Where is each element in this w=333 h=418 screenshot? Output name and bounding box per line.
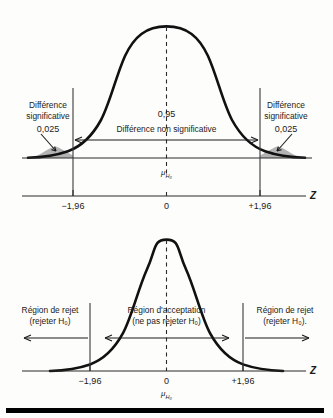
top-center-area-value: 0,95 xyxy=(158,109,176,119)
top-right-region-label-line2: significative xyxy=(264,111,308,121)
top-normal-curve xyxy=(28,26,305,157)
bottom-right-region-label-line2: (rejeter H₀). xyxy=(263,316,307,326)
statistics-figure: Différence significative 0,025 Différenc… xyxy=(0,0,333,418)
bottom-z-axis-label: Z xyxy=(309,365,317,376)
top-panel: Différence significative 0,025 Différenc… xyxy=(22,26,317,211)
top-right-leader-line xyxy=(277,134,292,151)
bottom-left-region-label-line2: (rejeter H₀) xyxy=(29,316,70,326)
bottom-center-region-label-line1: Région d'acceptation xyxy=(128,305,206,315)
bottom-mu-label: μH₀ xyxy=(160,389,172,400)
top-left-leader-line xyxy=(41,134,56,151)
bottom-tick-label-center: 0 xyxy=(164,376,169,386)
top-left-region-value: 0,025 xyxy=(37,124,60,134)
top-left-region-label-line1: Différence xyxy=(29,100,67,110)
top-tick-label-right: +1,96 xyxy=(249,201,272,211)
bottom-right-region-label-line1: Région de rejet xyxy=(257,305,314,315)
bottom-black-bar xyxy=(6,408,324,413)
top-right-region-value: 0,025 xyxy=(275,124,298,134)
top-right-region-label-line1: Différence xyxy=(267,100,305,110)
top-tick-label-center: 0 xyxy=(164,201,169,211)
top-left-region-label-line2: significative xyxy=(26,111,70,121)
bottom-tick-label-right: +1,96 xyxy=(232,376,255,386)
top-tick-label-left: −1,96 xyxy=(62,201,85,211)
bottom-left-region-label-line1: Région de rejet xyxy=(22,305,79,315)
bottom-center-region-label-line2: (ne pas rejeter H₀) xyxy=(132,316,201,326)
bottom-panel: Z Région de rejet (rejeter H₀) Région d'… xyxy=(22,240,317,400)
top-z-axis-label: Z xyxy=(309,190,317,201)
bottom-tick-label-left: −1,96 xyxy=(79,376,102,386)
top-center-region-label: Différence non significative xyxy=(117,124,217,134)
